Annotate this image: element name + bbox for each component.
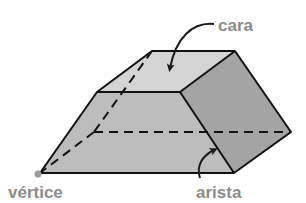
face-label: cara [218, 16, 254, 35]
vertex-label: vértice [8, 183, 63, 202]
vertex-dot [35, 171, 42, 178]
prism-diagram: cara vértice arista [0, 0, 306, 203]
edge-label: arista [196, 183, 242, 202]
